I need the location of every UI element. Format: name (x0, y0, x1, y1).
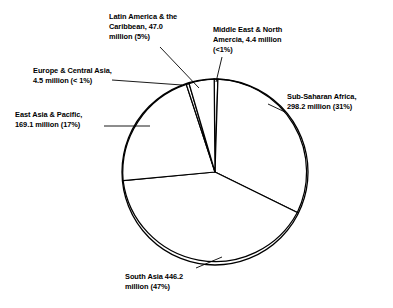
slice-label-south-asia: South Asia 446.2 million (47%) (125, 272, 213, 292)
slice-label-sub-saharan-africa: Sub-Saharan Africa, 298.2 million (31%) (287, 92, 377, 112)
leader-line-latin-america (160, 47, 199, 88)
slice-label-europe-central-asia: Europe & Central Asia, 4.5 million (< 1%… (33, 66, 131, 86)
pie-wedges (123, 79, 307, 262)
slice-label-latin-america-caribbean: Latin America & the Caribbean, 47.0 mill… (109, 12, 189, 43)
slice-label-east-asia-pacific: East Asia & Pacific, 169.1 million (17%) (15, 110, 107, 130)
slice-label-middle-east-north-africa: Middle East & North Amercia, 4.4 million… (213, 25, 295, 56)
pie-chart-page: Latin America & the Caribbean, 47.0 mill… (0, 0, 393, 308)
leader-line-middle-east (216, 57, 222, 82)
pie-chart-figure (0, 0, 393, 308)
